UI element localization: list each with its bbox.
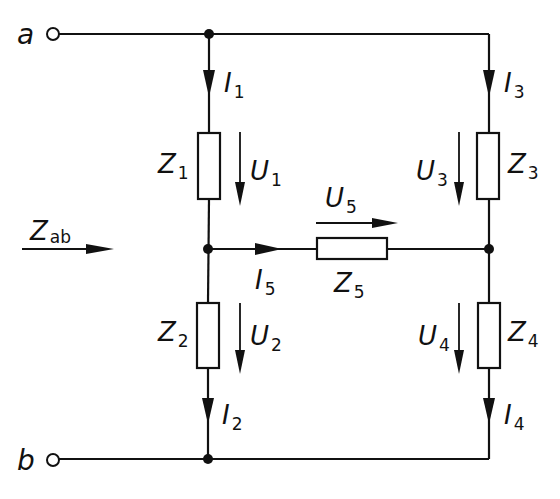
current-arrow-i1-icon bbox=[203, 70, 215, 97]
voltage-arrow-u5-icon bbox=[316, 218, 398, 228]
bridge-circuit-diagram: a b I1 I3 I2 I4 I5 U1 bbox=[0, 0, 560, 499]
label-i1: I1 bbox=[224, 68, 245, 102]
node-middle-left bbox=[203, 244, 213, 254]
impedance-z5 bbox=[317, 238, 387, 259]
voltage-arrow-u2-icon bbox=[235, 303, 245, 374]
terminal-b-label: b bbox=[17, 444, 35, 477]
label-u2: U2 bbox=[250, 321, 282, 355]
voltage-arrow-u3-icon bbox=[454, 132, 464, 206]
label-z2: Z2 bbox=[157, 317, 189, 351]
label-i4: I4 bbox=[504, 400, 525, 434]
label-z4: Z4 bbox=[507, 317, 539, 351]
impedance-z1 bbox=[198, 133, 220, 199]
current-arrow-i4-icon bbox=[483, 398, 495, 424]
current-arrow-i5-icon bbox=[255, 243, 282, 255]
current-arrow-i3-icon bbox=[483, 70, 495, 97]
wires bbox=[59, 34, 489, 459]
label-z5: Z5 bbox=[333, 268, 365, 302]
label-i2: I2 bbox=[222, 400, 243, 434]
label-u5: U5 bbox=[325, 183, 357, 217]
node-top bbox=[204, 29, 214, 39]
node-bottom bbox=[203, 454, 213, 464]
label-u1: U1 bbox=[250, 156, 282, 190]
label-i5: I5 bbox=[255, 265, 276, 299]
label-z1: Z1 bbox=[157, 149, 189, 183]
label-zab: Zab bbox=[29, 216, 71, 247]
voltage-arrow-u1-icon bbox=[235, 132, 245, 206]
impedance-z4 bbox=[478, 303, 500, 368]
current-arrow-i2-icon bbox=[202, 398, 214, 424]
impedance-z2 bbox=[197, 303, 219, 368]
node-middle-right bbox=[484, 244, 494, 254]
label-i3: I3 bbox=[504, 68, 525, 102]
label-u4: U4 bbox=[418, 321, 450, 355]
voltage-arrow-u4-icon bbox=[454, 303, 464, 374]
terminal-b-circle bbox=[47, 454, 59, 466]
label-u3: U3 bbox=[416, 156, 448, 190]
terminal-a-label: a bbox=[17, 18, 34, 51]
label-z3: Z3 bbox=[507, 149, 539, 183]
terminal-a-circle bbox=[47, 28, 59, 40]
impedance-z3 bbox=[477, 133, 499, 199]
